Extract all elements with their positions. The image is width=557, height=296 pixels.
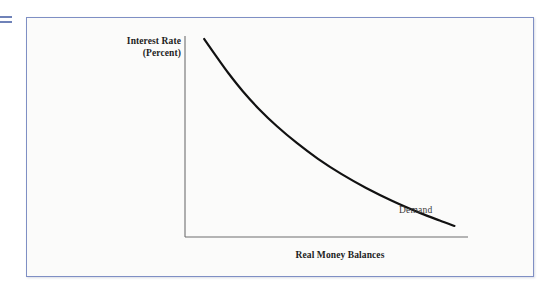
left-edge-marker (0, 15, 12, 25)
y-axis-label-line-1: Interest Rate (59, 35, 181, 47)
figure-page: Interest Rate (Percent) Real Money Balan… (0, 0, 557, 296)
demand-curve-label: Demand (399, 205, 432, 215)
money-demand-curve (204, 39, 454, 226)
edge-marker-bar-top (0, 16, 12, 18)
x-axis-label: Real Money Balances (185, 250, 495, 260)
y-axis-label: Interest Rate (Percent) (59, 35, 181, 59)
y-axis-label-line-2: (Percent) (59, 47, 181, 59)
edge-marker-bar-bottom (0, 21, 12, 23)
figure-frame: Interest Rate (Percent) Real Money Balan… (26, 17, 534, 277)
